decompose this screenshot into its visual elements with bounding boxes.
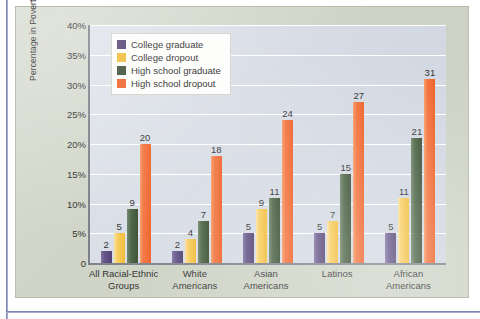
bar-fill: [353, 102, 364, 263]
bar-fill: [114, 233, 125, 263]
bar-fill: [127, 209, 138, 263]
bar-value-label: 5: [246, 221, 251, 232]
x-tick-label-line: Americans: [223, 280, 309, 292]
bar: 9: [127, 209, 138, 263]
bar-group: 5112131: [375, 25, 446, 263]
bar: 11: [398, 198, 409, 263]
bar-group: 591124: [232, 25, 303, 263]
bar-fill: [140, 144, 151, 263]
bar-value-label: 7: [330, 209, 335, 220]
bar: 2: [101, 251, 112, 263]
bar-value-label: 11: [270, 186, 280, 197]
bar-fill: [269, 198, 280, 263]
bar: 5: [385, 233, 396, 263]
bar-fill: [256, 209, 267, 263]
bar-fill: [282, 120, 293, 263]
bar: 18: [211, 156, 222, 263]
legend-swatch-icon: [117, 53, 126, 62]
legend-item-label: College graduate: [131, 39, 203, 50]
y-tick-label: 20%: [67, 139, 86, 150]
bar-value-label: 5: [116, 221, 121, 232]
y-tick-label: 10%: [67, 198, 86, 209]
legend-item-label: College dropout: [131, 52, 198, 63]
bar-value-label: 18: [211, 144, 222, 155]
y-axis-tick-labels: 05%10%15%20%25%30%35%40%: [42, 25, 86, 263]
bar-value-label: 2: [175, 239, 180, 250]
bar: 24: [282, 120, 293, 263]
y-axis-title: Percentage in Poverty: [28, 0, 38, 103]
bar: 4: [185, 239, 196, 263]
legend-item-label: High school graduate: [131, 65, 221, 76]
bar: 5: [243, 233, 254, 263]
bar-fill: [385, 233, 396, 263]
y-tick-label: 25%: [67, 109, 86, 120]
legend-swatch-icon: [117, 40, 126, 49]
bar-fill: [185, 239, 196, 263]
bar-value-label: 5: [317, 221, 322, 232]
bar: 9: [256, 209, 267, 263]
bar-fill: [198, 221, 209, 263]
bar-group: 571527: [304, 25, 375, 263]
chart-legend: College graduateCollege dropoutHigh scho…: [111, 33, 231, 95]
bar-value-label: 7: [201, 209, 206, 220]
bar-fill: [424, 79, 435, 263]
x-tick-label-line: Americans: [365, 280, 451, 292]
bar-value-label: 2: [103, 239, 108, 250]
legend-item-label: High school dropout: [131, 78, 216, 89]
bar-value-label: 9: [259, 197, 264, 208]
bar-value-label: 11: [399, 186, 409, 197]
x-tick-label: AfricanAmericans: [365, 268, 451, 291]
bar: 20: [140, 144, 151, 263]
x-axis-tick-labels: All Racial-EthnicGroupsWhiteAmericansAsi…: [88, 268, 444, 296]
bar-value-label: 21: [412, 126, 423, 137]
bar-value-label: 20: [140, 132, 151, 143]
bar-fill: [327, 221, 338, 263]
bar-fill: [314, 233, 325, 263]
bar-fill: [340, 174, 351, 263]
bar: 11: [269, 198, 280, 263]
chart-page: Percentage in Poverty 05%10%15%20%25%30%…: [0, 0, 480, 319]
bar: 15: [340, 174, 351, 263]
legend-swatch-icon: [117, 66, 126, 75]
bar-fill: [101, 251, 112, 263]
bar-value-label: 27: [353, 90, 364, 101]
legend-item[interactable]: High school graduate: [117, 64, 221, 77]
bar: 27: [353, 102, 364, 263]
y-tick-label: 35%: [67, 49, 86, 60]
bar-fill: [398, 198, 409, 263]
bar-value-label: 9: [129, 197, 134, 208]
y-tick-label: 15%: [67, 168, 86, 179]
bar: 7: [198, 221, 209, 263]
bar: 5: [114, 233, 125, 263]
legend-item[interactable]: College dropout: [117, 51, 221, 64]
bar: 2: [172, 251, 183, 263]
bar: 5: [314, 233, 325, 263]
bar-value-label: 31: [425, 67, 436, 78]
bar-value-label: 5: [388, 221, 393, 232]
legend-item[interactable]: College graduate: [117, 38, 221, 51]
bar-value-label: 15: [340, 162, 351, 173]
bar: 7: [327, 221, 338, 263]
y-tick-label: 5%: [72, 228, 86, 239]
bar-chart-figure: Percentage in Poverty 05%10%15%20%25%30%…: [16, 7, 468, 297]
y-tick-label: 0: [81, 258, 86, 269]
bar: 21: [411, 138, 422, 263]
bar-value-label: 4: [188, 227, 193, 238]
x-axis-line: [88, 263, 446, 265]
bar-fill: [211, 156, 222, 263]
bar: 31: [424, 79, 435, 263]
bar-fill: [172, 251, 183, 263]
y-tick-label: 30%: [67, 79, 86, 90]
bar-fill: [243, 233, 254, 263]
y-tick-label: 40%: [67, 20, 86, 31]
page-left-rule: [6, 0, 8, 319]
bar-value-label: 24: [282, 108, 293, 119]
page-bottom-rule: [6, 311, 480, 313]
bar-fill: [411, 138, 422, 263]
x-tick-label-line: African: [365, 268, 451, 280]
legend-item[interactable]: High school dropout: [117, 77, 221, 90]
legend-swatch-icon: [117, 79, 126, 88]
